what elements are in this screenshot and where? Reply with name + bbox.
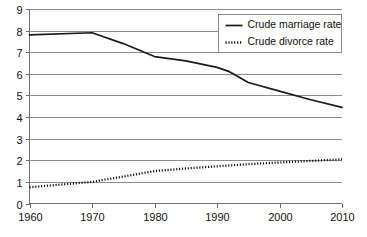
legend-label: Crude marriage rate [248, 18, 342, 30]
y-tick-label: 3 [16, 134, 22, 146]
chart-canvas: 0123456789 196019701980199020002010 Crud… [0, 0, 367, 237]
divorce-rate-line [30, 159, 343, 187]
y-tick-label: 8 [16, 26, 22, 38]
x-tick-label: 1970 [80, 211, 104, 223]
data-series [30, 33, 343, 188]
x-tick-labels: 196019701980199020002010 [18, 204, 354, 223]
y-tick-label: 9 [16, 4, 22, 16]
x-tick-label: 2000 [268, 211, 292, 223]
y-tick-labels: 0123456789 [16, 4, 29, 211]
y-tick-label: 2 [16, 155, 22, 167]
line-chart: 0123456789 196019701980199020002010 Crud… [0, 0, 367, 237]
y-tick-label: 7 [16, 47, 22, 59]
x-tick-label: 1990 [205, 211, 229, 223]
y-tick-label: 0 [16, 199, 22, 211]
y-tick-label: 5 [16, 90, 22, 102]
x-tick-label: 1980 [143, 211, 167, 223]
y-tick-label: 4 [16, 112, 22, 124]
x-tick-label: 1960 [18, 211, 42, 223]
y-tick-label: 6 [16, 69, 22, 81]
legend-label: Crude divorce rate [248, 35, 335, 47]
y-tick-label: 1 [16, 177, 22, 189]
chart-legend: Crude marriage rateCrude divorce rate [219, 15, 342, 53]
x-tick-label: 2010 [330, 211, 354, 223]
